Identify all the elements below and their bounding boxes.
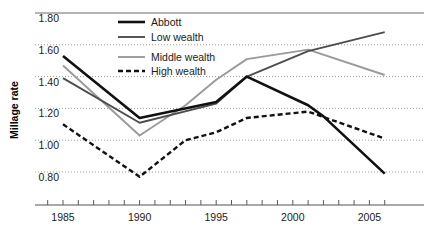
y-axis-title: Millage rate xyxy=(8,81,20,139)
chart-canvas: 1.801.601.401.201.000.80 198519901995200… xyxy=(0,0,429,242)
x-tick-label: 2005 xyxy=(358,211,382,223)
y-tick-label: 1.00 xyxy=(39,139,60,151)
x-tick-label: 1995 xyxy=(205,211,229,223)
x-tick-label: 1985 xyxy=(51,211,75,223)
legend-label-high-wealth: High wealth xyxy=(151,65,206,77)
x-tick-label: 2000 xyxy=(281,211,305,223)
y-tick-label: 1.60 xyxy=(39,44,60,56)
y-tick-label: 0.80 xyxy=(39,171,60,183)
legend-label-middle-wealth: Middle wealth xyxy=(151,51,215,63)
y-tick-label: 1.20 xyxy=(39,107,60,119)
y-tick-label: 1.80 xyxy=(39,12,60,24)
legend-label-abbott: Abbott xyxy=(151,16,181,28)
legend-label-low-wealth: Low wealth xyxy=(151,31,204,43)
x-tick-label: 1990 xyxy=(128,211,152,223)
y-tick-label: 1.40 xyxy=(39,76,60,88)
millage-rate-line-chart: 1.801.601.401.201.000.80 198519901995200… xyxy=(0,0,429,242)
